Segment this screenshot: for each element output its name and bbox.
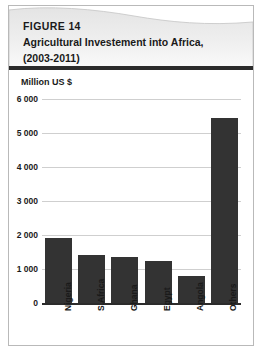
y-axis-tick-label: 5 000 — [9, 128, 38, 138]
figure-title-line-1: Agricultural Investement into Africa, — [23, 34, 243, 50]
gridline — [42, 99, 241, 100]
x-axis-tick-label: Nigeria — [63, 282, 73, 311]
figure-header: FIGURE 14 Agricultural Investement into … — [9, 6, 253, 70]
x-axis-tick-label: Egypt — [162, 287, 172, 311]
figure-title-block: FIGURE 14 Agricultural Investement into … — [23, 19, 243, 66]
y-axis-tick-label: 3 000 — [9, 196, 38, 206]
figure-title-line-2: (2003-2011) — [23, 50, 243, 66]
x-axis-tick-label: Others — [228, 284, 238, 311]
x-axis-tick-label: Ghana — [129, 285, 139, 311]
figure-number-label: FIGURE 14 — [23, 19, 243, 34]
chart-plot-area: Million US $ 6 0005 0004 0003 0002 0001 … — [9, 70, 253, 345]
x-axis-tick-label: S.Africa — [96, 279, 106, 311]
figure-card: FIGURE 14 Agricultural Investement into … — [0, 0, 262, 353]
y-axis-unit-label: Million US $ — [21, 77, 72, 87]
y-axis-tick-label: 2 000 — [9, 230, 38, 240]
y-axis-tick-label: 4 000 — [9, 162, 38, 172]
y-axis-tick-label: 0 — [9, 298, 38, 308]
y-axis-tick-label: 6 000 — [9, 94, 38, 104]
x-axis-tick-label: Angola — [195, 282, 205, 311]
y-axis-tick-label: 1 000 — [9, 264, 38, 274]
bar-others — [211, 118, 238, 303]
